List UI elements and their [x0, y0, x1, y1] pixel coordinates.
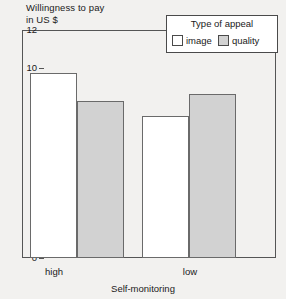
y-axis-title: Willingness to payin US $ — [26, 2, 104, 25]
legend-label-image: image — [186, 35, 212, 46]
y-tick-mark — [39, 30, 44, 31]
legend: Type of appeal image quality — [166, 15, 278, 53]
bar-chart: Willingness to payin US $ 12 10 8 6 4 2 — [0, 0, 286, 299]
bar-high-quality[interactable] — [77, 101, 124, 258]
plot-area: 12 10 8 6 4 2 0 — [22, 30, 276, 258]
y-axis-title-line-1: Willingness to pay — [26, 2, 104, 13]
legend-swatch-icon-image — [172, 35, 183, 46]
bar-low-quality[interactable] — [189, 94, 236, 258]
x-tick-label-high: high — [45, 266, 63, 277]
y-tick-label: 12 — [26, 24, 37, 35]
y-tick-label: 10 — [26, 62, 37, 73]
bar-high-image[interactable] — [30, 73, 77, 258]
legend-entry-quality[interactable]: quality — [218, 35, 259, 46]
bar-low-image[interactable] — [142, 116, 189, 259]
legend-entry-image[interactable]: image — [172, 35, 212, 46]
legend-swatch-icon-quality — [218, 35, 229, 46]
y-tick-mark — [39, 68, 44, 69]
x-axis-tick-labels: high low — [0, 266, 286, 280]
legend-title: Type of appeal — [167, 18, 277, 29]
x-tick-label-low: low — [183, 266, 197, 277]
legend-items: image quality — [172, 35, 259, 46]
legend-label-quality: quality — [232, 35, 259, 46]
x-axis-title: Self-monitoring — [0, 283, 286, 294]
